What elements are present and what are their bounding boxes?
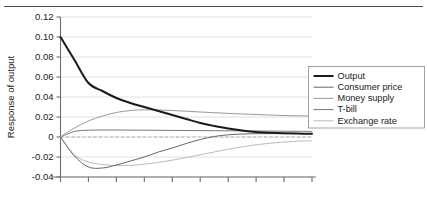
y-tick-label: -0.04 <box>32 171 54 182</box>
gridlines-group <box>61 17 313 177</box>
legend-label-consumer-price: Consumer price <box>338 82 403 92</box>
y-tick-label: 0.10 <box>35 31 54 42</box>
series-line-consumer-price <box>61 134 313 169</box>
y-axis-ticks: 0.120.100.080.060.040.020-0.02-0.04 <box>32 11 61 182</box>
y-axis-title: Response of output <box>5 55 16 138</box>
y-tick-label: -0.02 <box>32 151 54 162</box>
series-line-exchange-rate <box>61 137 313 166</box>
legend-label-exchange-rate: Exchange rate <box>338 116 397 126</box>
y-tick-label: 0.06 <box>35 71 54 82</box>
legend-label-output: Output <box>338 71 366 81</box>
impulse-response-chart: 0.120.100.080.060.040.020-0.02-0.04 Resp… <box>0 0 427 200</box>
x-axis-ticks <box>61 177 313 182</box>
y-tick-label: 0.12 <box>35 11 54 22</box>
series-line-output <box>61 37 313 134</box>
chart-legend: OutputConsumer priceMoney supplyT-billEx… <box>309 67 425 129</box>
y-tick-label: 0 <box>48 131 53 142</box>
y-tick-label: 0.02 <box>35 111 54 122</box>
figure-container: 0.120.100.080.060.040.020-0.02-0.04 Resp… <box>0 0 427 200</box>
legend-label-money-supply: Money supply <box>338 93 395 103</box>
y-tick-label: 0.04 <box>35 91 54 102</box>
y-axis-title-text: Response of output <box>5 55 16 138</box>
y-tick-label: 0.08 <box>35 51 54 62</box>
legend-label-t-bill: T-bill <box>338 104 357 114</box>
